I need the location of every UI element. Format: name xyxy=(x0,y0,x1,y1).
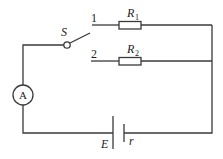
resistor-r2 xyxy=(119,58,141,66)
switch-pivot xyxy=(64,42,70,48)
resistor-r1-subscript: 1 xyxy=(135,13,139,22)
terminal-1-label: 1 xyxy=(91,11,97,25)
switch-blade xyxy=(70,33,90,43)
wire-right xyxy=(124,25,212,133)
ammeter-label: A xyxy=(19,89,27,101)
switch-label: S xyxy=(61,25,67,39)
wire-left-top xyxy=(23,45,66,85)
terminal-2-label: 2 xyxy=(91,47,97,61)
resistor-r2-subscript: 2 xyxy=(135,49,139,58)
wire-left-bottom xyxy=(23,105,113,133)
resistor-r1 xyxy=(119,22,141,30)
resistor-r1-label: R xyxy=(126,6,135,20)
circuit-diagram: S 1 2 R 1 R 2 A E r xyxy=(0,0,223,159)
battery-internal-resistance-label: r xyxy=(129,134,134,148)
resistor-r2-label: R xyxy=(126,42,135,56)
battery-emf-label: E xyxy=(100,137,109,151)
